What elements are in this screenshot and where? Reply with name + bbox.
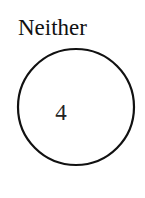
venn-set-diagram: 4	[0, 0, 145, 198]
set-circle	[18, 49, 134, 165]
set-count: 4	[55, 100, 67, 125]
